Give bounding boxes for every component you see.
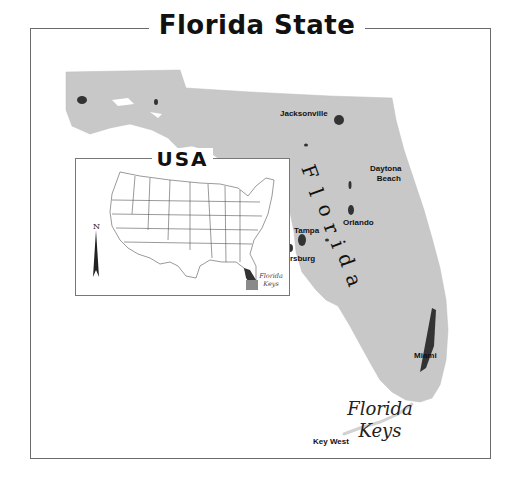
inset-title-container: USA [75,148,290,170]
usa-outline [0,0,514,487]
north-arrow [93,230,99,277]
inset-title: USA [152,148,212,170]
north-arrow-label: N [93,222,100,231]
inset-florida-keys-label: Florida Keys [256,272,286,288]
inset-keys-line: Keys [256,280,286,288]
inset-keys-line: Florida [256,272,286,280]
